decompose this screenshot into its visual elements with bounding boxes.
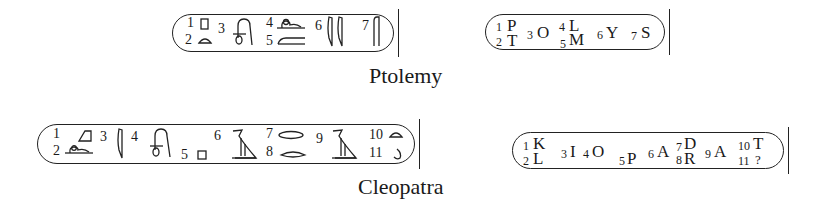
cleopatra-caption: Cleopatra <box>358 175 444 199</box>
bread-loaf-icon <box>389 130 403 138</box>
sign-label: 8 <box>266 145 273 159</box>
sign-label: 3 <box>100 130 107 144</box>
sign-label: 6 <box>315 19 322 33</box>
double-reed-icon <box>326 16 346 48</box>
mouth-icon <box>278 130 304 140</box>
mouth-bar-icon <box>276 36 306 46</box>
lion-icon <box>276 16 306 30</box>
sign-label: 7 <box>266 127 273 141</box>
sign-label: 4 <box>131 130 138 144</box>
letter-number: 10 <box>738 140 750 152</box>
letter-number: 5 <box>619 155 625 167</box>
letter-number: 3 <box>527 29 533 41</box>
letter-number: 11 <box>738 155 750 167</box>
cartouche-end-bar <box>788 127 789 174</box>
letter-number: 3 <box>561 148 567 160</box>
sign-label: 2 <box>185 33 192 47</box>
sign-label: 10 <box>369 128 383 142</box>
lasso-loop-icon <box>149 128 173 158</box>
folded-cloth-icon <box>372 16 382 48</box>
sign-label: 4 <box>266 16 273 30</box>
letter: A <box>714 143 726 160</box>
cartouche-end-bar <box>419 119 420 169</box>
lasso-loop-icon <box>232 18 254 46</box>
reed-icon <box>116 128 124 160</box>
letter: L <box>533 150 543 167</box>
basket-triangle-icon <box>77 129 93 143</box>
vulture-icon <box>230 128 258 160</box>
letter: R <box>684 150 695 167</box>
letter: S <box>641 24 650 41</box>
letter: I <box>570 143 576 160</box>
letter-number: 1 <box>523 140 529 152</box>
sign-label: 5 <box>181 148 188 162</box>
letter-number: 7 <box>676 141 682 153</box>
sign-label: 1 <box>53 127 60 141</box>
letter-number: 4 <box>559 21 565 33</box>
sign-label: 2 <box>53 144 60 158</box>
sign-label: 11 <box>369 146 382 160</box>
bread-loaf-icon <box>198 36 212 44</box>
ptolemy-caption: Ptolemy <box>369 64 442 88</box>
letter-number: 8 <box>676 154 682 166</box>
square-stool-icon <box>197 150 207 160</box>
sign-label: 1 <box>187 16 194 30</box>
letter-number: 5 <box>560 38 566 50</box>
letter-number: 6 <box>648 148 654 160</box>
letter: T <box>753 135 763 152</box>
letter-number: 6 <box>597 29 603 41</box>
letter: P <box>627 150 636 167</box>
letter-number: 1 <box>496 21 502 33</box>
letter: O <box>537 24 549 41</box>
cartouche-end-bar <box>669 9 670 55</box>
sign-label: 3 <box>218 22 225 36</box>
vulture-icon <box>330 128 358 160</box>
letter-number: 7 <box>631 30 637 42</box>
letter: T <box>507 32 517 49</box>
hand-icon <box>280 151 306 159</box>
cartouche-end-bar <box>398 9 399 57</box>
sign-label: 6 <box>214 129 221 143</box>
letter: O <box>592 143 604 160</box>
egg-icon <box>391 147 403 161</box>
letter: M <box>569 31 584 48</box>
letter: ? <box>755 151 761 168</box>
square-stool-icon <box>200 18 210 30</box>
sign-label: 9 <box>316 132 323 146</box>
letter-number: 2 <box>523 155 529 167</box>
letter: Y <box>606 24 618 41</box>
letter-number: 2 <box>496 36 502 48</box>
lion-icon <box>64 143 94 155</box>
sign-label: 7 <box>362 19 369 33</box>
letter-number: 9 <box>705 148 711 160</box>
letter: A <box>657 143 669 160</box>
letter-number: 4 <box>583 148 589 160</box>
sign-label: 5 <box>266 34 273 48</box>
